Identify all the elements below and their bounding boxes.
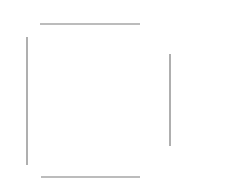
line-diagram	[0, 0, 238, 181]
